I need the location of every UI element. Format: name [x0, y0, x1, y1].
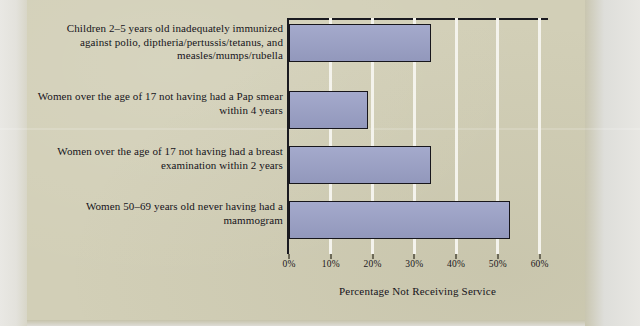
tick-label-40: 40% [436, 259, 476, 269]
category-label-group: Children 2–5 years old inadequately immu… [35, 18, 283, 254]
tick-label-50: 50% [478, 259, 518, 269]
page-right-edge [585, 0, 640, 326]
tick-label-0: 0% [269, 259, 309, 269]
x-axis-title: Percentage Not Receiving Service [287, 285, 548, 297]
tick-label-30: 30% [394, 259, 434, 269]
plot-top-rule [287, 18, 548, 20]
tick-label-10: 10% [311, 259, 351, 269]
category-label-immunization: Children 2–5 years old inadequately immu… [35, 22, 283, 63]
bar-immunization [289, 24, 431, 62]
bar-pap-smear [289, 91, 368, 129]
bar-fill-texture [290, 92, 367, 128]
page-left-margin [0, 0, 27, 326]
category-label-breast-exam: Women over the age of 17 not having had … [35, 145, 283, 172]
tick-label-20: 20% [353, 259, 393, 269]
gridline-60 [538, 18, 541, 254]
bar-breast-exam [289, 146, 431, 184]
page-bottom-edge [27, 320, 585, 326]
category-label-pap-smear: Women over the age of 17 not having had … [35, 90, 283, 117]
bar-fill-texture [290, 147, 430, 183]
plot-area [287, 18, 548, 254]
category-label-mammogram: Women 50–69 years old never having had a… [35, 200, 283, 227]
bar-mammogram [289, 201, 510, 239]
tick-label-60: 60% [520, 259, 560, 269]
bar-fill-texture [290, 25, 430, 61]
bar-fill-texture [290, 202, 509, 238]
horizontal-bar-chart: Children 2–5 years old inadequately immu… [27, 0, 585, 320]
chart-page: Children 2–5 years old inadequately immu… [0, 0, 640, 326]
x-axis-tick-group: 0%10%20%30%40%50%60% [287, 254, 548, 272]
